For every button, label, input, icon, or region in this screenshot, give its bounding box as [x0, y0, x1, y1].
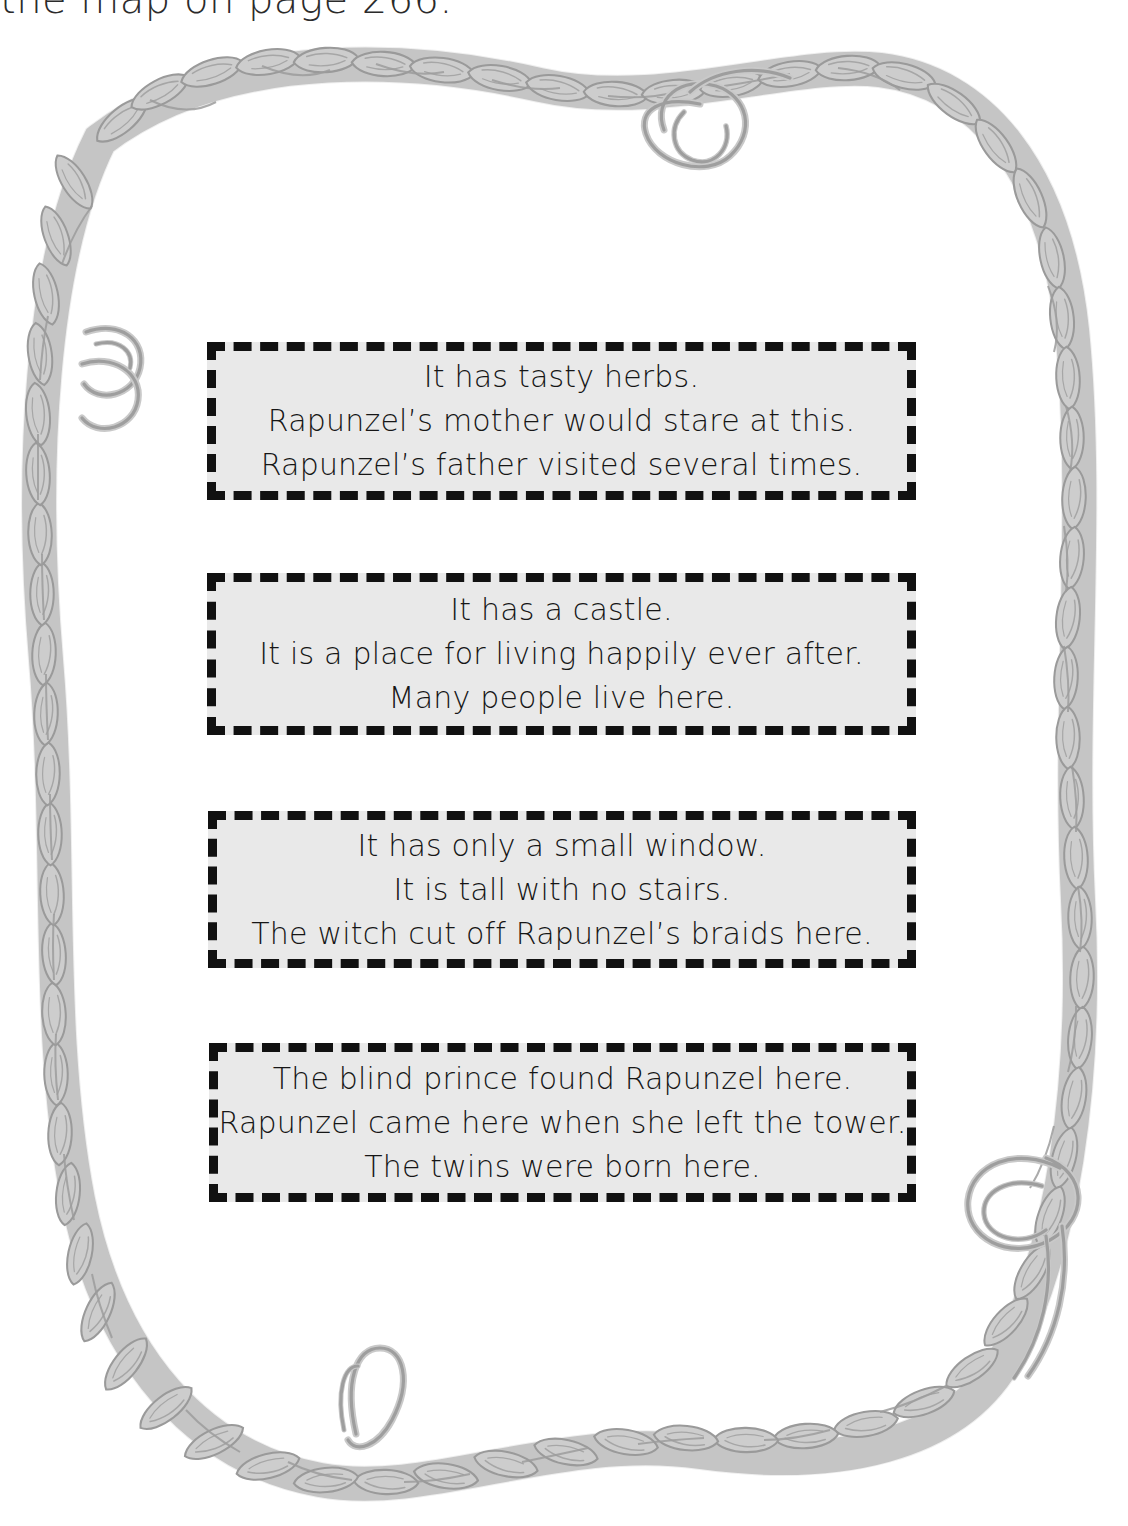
clue-line: The blind prince found Rapunzel here.: [273, 1057, 853, 1101]
clue-line: The witch cut off Rapunzel’s braids here…: [251, 912, 872, 956]
clue-line: Many people live here.: [389, 676, 735, 720]
clue-line: It has a castle.: [450, 588, 672, 632]
clue-card-kingdom[interactable]: It has a castle. It is a place for livin…: [207, 573, 916, 735]
clue-card-list: It has tasty herbs. Rapunzel’s mother wo…: [0, 0, 1128, 1526]
clue-line: The twins were born here.: [364, 1145, 761, 1189]
clue-line: It is a place for living happily ever af…: [259, 632, 863, 676]
clue-line: Rapunzel’s father visited several times.: [261, 443, 863, 487]
clue-line: It is tall with no stairs.: [394, 868, 731, 912]
clue-card-wilderness[interactable]: The blind prince found Rapunzel here. Ra…: [209, 1043, 916, 1202]
clue-line: Rapunzel came here when she left the tow…: [219, 1101, 907, 1145]
clue-line: Rapunzel’s mother would stare at this.: [268, 399, 855, 443]
clue-line: It has tasty herbs.: [424, 355, 699, 399]
clue-card-garden[interactable]: It has tasty herbs. Rapunzel’s mother wo…: [207, 342, 916, 500]
clue-line: It has only a small window.: [357, 824, 766, 868]
worksheet-page: the map on page 266.: [0, 0, 1128, 1526]
clue-card-tower[interactable]: It has only a small window. It is tall w…: [208, 811, 916, 968]
